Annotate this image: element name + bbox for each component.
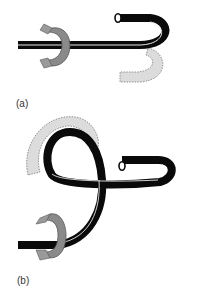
tube-end-b [119, 162, 125, 170]
diagram-svg [0, 0, 200, 298]
tube-a [18, 18, 165, 45]
tube-b [18, 132, 172, 245]
panel-label-b: (b) [17, 275, 29, 286]
panel-label-a: (a) [16, 98, 28, 109]
panel-b [18, 117, 172, 260]
rotation-clamp-b [36, 214, 66, 260]
panel-a [18, 14, 165, 82]
tube-end-a [115, 14, 121, 22]
ghost-hook-a [120, 48, 163, 82]
ghost-arc-b [27, 117, 99, 175]
scope-rotation-diagram: (a) (b) [0, 0, 200, 298]
